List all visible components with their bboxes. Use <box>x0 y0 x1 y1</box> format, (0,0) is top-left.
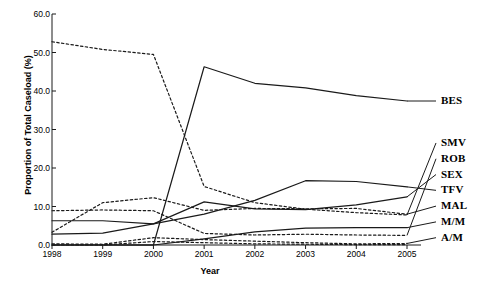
legend-label-mal: MAL <box>441 199 467 211</box>
legend-label-smv: SMV <box>441 136 466 148</box>
legend-label-sex: SEX <box>441 168 463 180</box>
legend-label-rob: ROB <box>441 152 465 164</box>
legend-label-tfv: TFV <box>441 183 464 195</box>
legend-label-m-m: M/M <box>441 215 465 227</box>
chart-figure: Proportion of Total Caseload (%) 0.010.0… <box>0 0 483 290</box>
legend: BESSMVROBSEXTFVMALM/MA/M <box>0 0 483 290</box>
legend-label-bes: BES <box>441 94 462 106</box>
legend-label-a-m: A/M <box>441 231 463 243</box>
